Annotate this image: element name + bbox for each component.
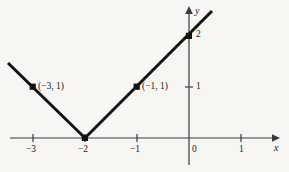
- x-tick-label-1: 1: [239, 145, 244, 155]
- graph-figure: −3 −2 −1 0 1 1 2 x y (−3, 1) (−1, 1): [0, 0, 289, 172]
- x-tick-label--2: −2: [78, 145, 88, 155]
- point-marker--3-1: [30, 84, 36, 90]
- x-tick-label--1: −1: [130, 145, 140, 155]
- y-axis-arrow-icon: [185, 6, 193, 14]
- point-marker--1-1: [134, 84, 140, 90]
- y-tick-label-2: 2: [196, 30, 201, 40]
- y-axis-label: y: [195, 6, 199, 16]
- absolute-value-curve: [8, 11, 212, 138]
- x-tick-label--3: −3: [26, 145, 36, 155]
- annotation--3-1: (−3, 1): [38, 82, 64, 92]
- x-axis-label: x: [274, 143, 278, 153]
- point-marker--2-0: [82, 135, 88, 141]
- x-axis: [10, 134, 280, 142]
- y-tick-label-1: 1: [196, 82, 201, 92]
- point-marker-0-2: [186, 33, 192, 39]
- x-axis-arrow-icon: [272, 134, 280, 142]
- annotation--1-1: (−1, 1): [142, 82, 168, 92]
- x-tick-label-0: 0: [192, 145, 197, 155]
